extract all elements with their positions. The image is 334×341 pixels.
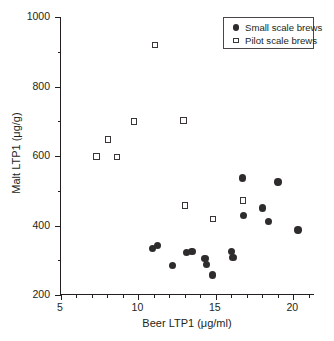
data-point-small-scale: [209, 271, 216, 278]
data-point-pilot-scale: [182, 202, 188, 208]
y-tick-label: 800: [0, 80, 50, 92]
data-point-pilot-scale: [240, 197, 246, 203]
data-point-small-scale: [240, 212, 247, 219]
data-point-small-scale: [294, 226, 301, 233]
y-axis-title: Malt LTP1 (μg/g): [10, 53, 22, 253]
legend-label: Pilot scale brews: [245, 35, 317, 46]
plot-area: [60, 17, 314, 295]
x-tick-minor: [76, 294, 77, 298]
y-tick-label: 400: [0, 219, 50, 231]
x-tick-minor: [200, 294, 201, 298]
data-point-pilot-scale: [210, 216, 216, 222]
x-tick-minor: [92, 294, 93, 298]
x-tick-label: 20: [277, 301, 307, 313]
x-axis-title: Beer LTP1 (μg/ml): [60, 317, 314, 329]
legend-item-small-scale-brews: Small scale brews: [230, 21, 322, 34]
data-point-small-scale: [154, 242, 161, 249]
legend-item-pilot-scale-brews: Pilot scale brews: [230, 34, 317, 47]
y-tick-minor: [58, 121, 62, 122]
data-point-small-scale: [239, 174, 246, 181]
filled-circle-icon: [230, 24, 242, 31]
x-tick: [138, 294, 139, 300]
data-point-pilot-scale: [105, 136, 111, 142]
x-tick-minor: [154, 294, 155, 298]
x-tick-minor: [185, 294, 186, 298]
data-point-pilot-scale: [93, 153, 99, 159]
x-tick-label: 15: [200, 301, 230, 313]
x-tick-minor: [123, 294, 124, 298]
scatter-plot-figure: 20040060080010005101520 Beer LTP1 (μg/ml…: [0, 0, 334, 341]
x-tick-minor: [278, 294, 279, 298]
y-tick: [55, 156, 61, 157]
x-tick-minor: [169, 294, 170, 298]
x-tick-minor: [107, 294, 108, 298]
y-tick-minor: [58, 191, 62, 192]
y-tick-label: 600: [0, 149, 50, 161]
y-tick: [55, 17, 61, 18]
x-tick-minor: [262, 294, 263, 298]
data-point-pilot-scale: [180, 117, 186, 123]
y-tick: [55, 226, 61, 227]
data-point-pilot-scale: [131, 118, 137, 124]
data-point-small-scale: [203, 261, 210, 268]
data-point-small-scale: [169, 262, 176, 269]
data-point-pilot-scale: [114, 154, 120, 160]
x-tick-label: 5: [45, 301, 75, 313]
data-point-pilot-scale: [152, 42, 158, 48]
y-tick-minor: [58, 260, 62, 261]
open-square-icon: [230, 38, 242, 44]
chart-legend: Small scale brews Pilot scale brews: [223, 17, 314, 49]
x-tick-minor: [309, 294, 310, 298]
data-point-small-scale: [259, 204, 266, 211]
x-tick-minor: [247, 294, 248, 298]
data-point-small-scale: [265, 218, 272, 225]
data-point-small-scale: [229, 254, 236, 261]
y-tick-minor: [58, 52, 62, 53]
y-tick-label: 1000: [0, 10, 50, 22]
x-tick: [293, 294, 294, 300]
x-tick: [216, 294, 217, 300]
x-tick: [61, 294, 62, 300]
x-tick-label: 10: [122, 301, 152, 313]
data-point-small-scale: [188, 248, 195, 255]
data-point-small-scale: [274, 178, 281, 185]
y-tick-label: 200: [0, 288, 50, 300]
y-tick: [55, 87, 61, 88]
legend-label: Small scale brews: [245, 22, 322, 33]
x-tick-minor: [231, 294, 232, 298]
